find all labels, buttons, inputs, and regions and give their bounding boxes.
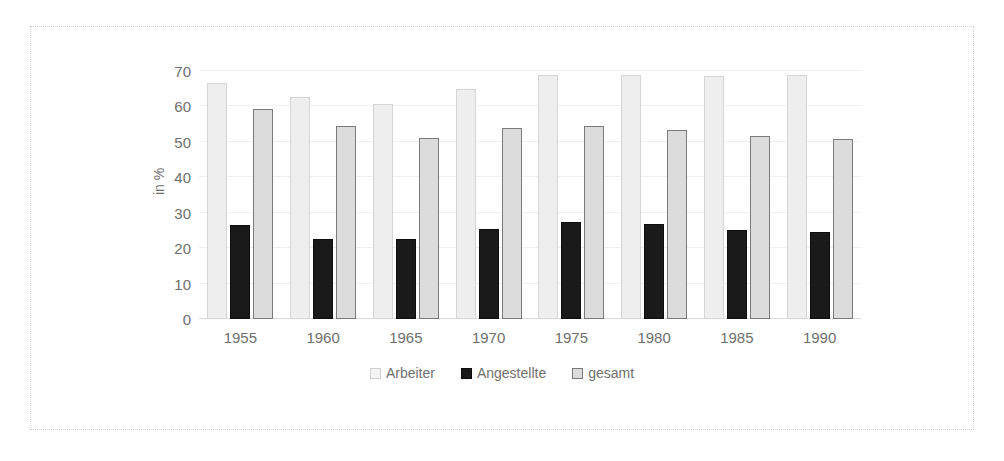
bar-group: 1960	[282, 71, 365, 319]
bar-gesamt[interactable]	[750, 136, 770, 319]
bar-angestellte[interactable]	[810, 232, 830, 319]
x-axis-tick-label: 1960	[282, 329, 365, 346]
x-axis-tick-label: 1980	[613, 329, 696, 346]
bar-arbeiter[interactable]	[373, 104, 393, 319]
bar-arbeiter[interactable]	[704, 76, 724, 319]
bar-arbeiter[interactable]	[207, 83, 227, 319]
legend-label: Arbeiter	[386, 365, 435, 381]
y-axis-tick-label: 0	[183, 311, 191, 328]
bar-gesamt[interactable]	[253, 109, 273, 319]
bar-gesamt[interactable]	[336, 126, 356, 319]
bar-arbeiter[interactable]	[538, 75, 558, 319]
y-axis-tick-label: 30	[174, 204, 191, 221]
y-axis-tick-label: 60	[174, 98, 191, 115]
bar-gesamt[interactable]	[833, 139, 853, 319]
bar-group: 1990	[778, 71, 861, 319]
bar-group: 1955	[199, 71, 282, 319]
bar-gesamt[interactable]	[502, 128, 522, 319]
bar-angestellte[interactable]	[230, 225, 250, 319]
legend-item-angestellte[interactable]: Angestellte	[461, 365, 546, 381]
chart-legend: ArbeiterAngestelltegesamt	[31, 365, 973, 381]
bar-group: 1965	[365, 71, 448, 319]
legend-swatch-icon	[572, 368, 583, 379]
bar-arbeiter[interactable]	[621, 75, 641, 319]
bar-angestellte[interactable]	[396, 239, 416, 319]
legend-label: gesamt	[588, 365, 634, 381]
bar-arbeiter[interactable]	[787, 75, 807, 319]
legend-swatch-icon	[370, 368, 381, 379]
x-axis-tick-label: 1990	[778, 329, 861, 346]
plot-area: 010203040506070 195519601965197019751980…	[199, 71, 861, 319]
x-axis-tick-label: 1975	[530, 329, 613, 346]
y-axis-tick-label: 40	[174, 169, 191, 186]
x-axis-tick-label: 1965	[365, 329, 448, 346]
x-axis-tick-label: 1985	[696, 329, 779, 346]
bar-gesamt[interactable]	[667, 130, 687, 319]
bar-group: 1970	[447, 71, 530, 319]
bar-angestellte[interactable]	[644, 224, 664, 319]
bar-gesamt[interactable]	[584, 126, 604, 319]
legend-item-arbeiter[interactable]: Arbeiter	[370, 365, 435, 381]
y-axis-tick-label: 50	[174, 133, 191, 150]
x-axis-tick-label: 1970	[447, 329, 530, 346]
bar-gesamt[interactable]	[419, 138, 439, 319]
bar-group: 1985	[696, 71, 779, 319]
chart-frame: in % 010203040506070 1955196019651970197…	[30, 26, 974, 430]
bar-group: 1980	[613, 71, 696, 319]
bar-angestellte[interactable]	[561, 222, 581, 319]
bar-arbeiter[interactable]	[456, 89, 476, 319]
legend-swatch-icon	[461, 368, 472, 379]
bar-angestellte[interactable]	[313, 239, 333, 319]
legend-label: Angestellte	[477, 365, 546, 381]
x-axis-tick-label: 1955	[199, 329, 282, 346]
y-axis-title: in %	[151, 175, 167, 195]
legend-item-gesamt[interactable]: gesamt	[572, 365, 634, 381]
y-axis-tick-label: 20	[174, 240, 191, 257]
bar-angestellte[interactable]	[479, 229, 499, 319]
bar-groups: 19551960196519701975198019851990	[199, 71, 861, 319]
bar-arbeiter[interactable]	[290, 97, 310, 319]
bar-angestellte[interactable]	[727, 230, 747, 319]
y-axis-tick-label: 70	[174, 63, 191, 80]
y-axis-tick-label: 10	[174, 275, 191, 292]
bar-group: 1975	[530, 71, 613, 319]
